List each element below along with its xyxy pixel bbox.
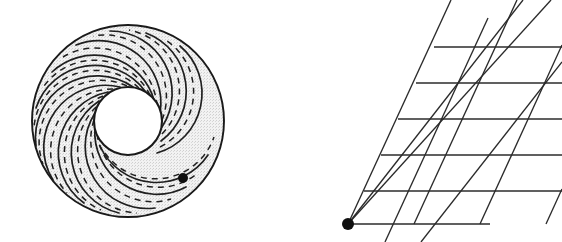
lattice-steep-lines xyxy=(348,0,562,242)
annulus-panel xyxy=(32,25,224,217)
annulus-marked-point xyxy=(178,173,188,183)
figure-root xyxy=(0,0,562,242)
lattice-shear-lines xyxy=(348,0,562,242)
figure-canvas xyxy=(0,0,562,242)
annulus-inner-boundary xyxy=(94,87,162,155)
lattice-panel xyxy=(342,0,562,242)
lattice-base-point xyxy=(342,218,354,230)
